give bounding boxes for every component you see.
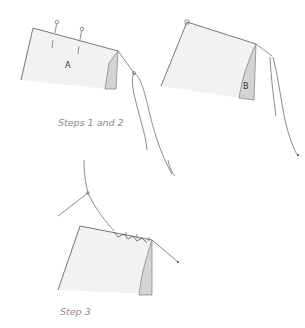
caption-steps-1-2: Steps 1 and 2	[58, 117, 124, 128]
thread	[273, 57, 298, 156]
thread	[118, 51, 134, 73]
thread	[134, 73, 172, 174]
thread	[256, 44, 272, 56]
thread-end	[177, 261, 179, 263]
thread	[88, 193, 114, 231]
fabric-piece	[58, 226, 152, 294]
thread	[152, 240, 178, 262]
thread	[58, 193, 88, 216]
thread-end	[297, 154, 299, 156]
sewing-diagram: A Steps 1 and 2 B	[0, 0, 305, 328]
panel-step-1: A Steps 1 and 2	[20, 20, 172, 174]
fabric-piece-a	[20, 28, 118, 89]
label-b: B	[243, 82, 249, 91]
caption-step-3: Step 3	[60, 306, 91, 317]
panel-step-2: B	[150, 20, 299, 158]
thread	[132, 73, 147, 150]
panel-step-3: Step 3	[58, 160, 179, 317]
label-a: A	[65, 61, 71, 70]
thread	[84, 160, 88, 193]
